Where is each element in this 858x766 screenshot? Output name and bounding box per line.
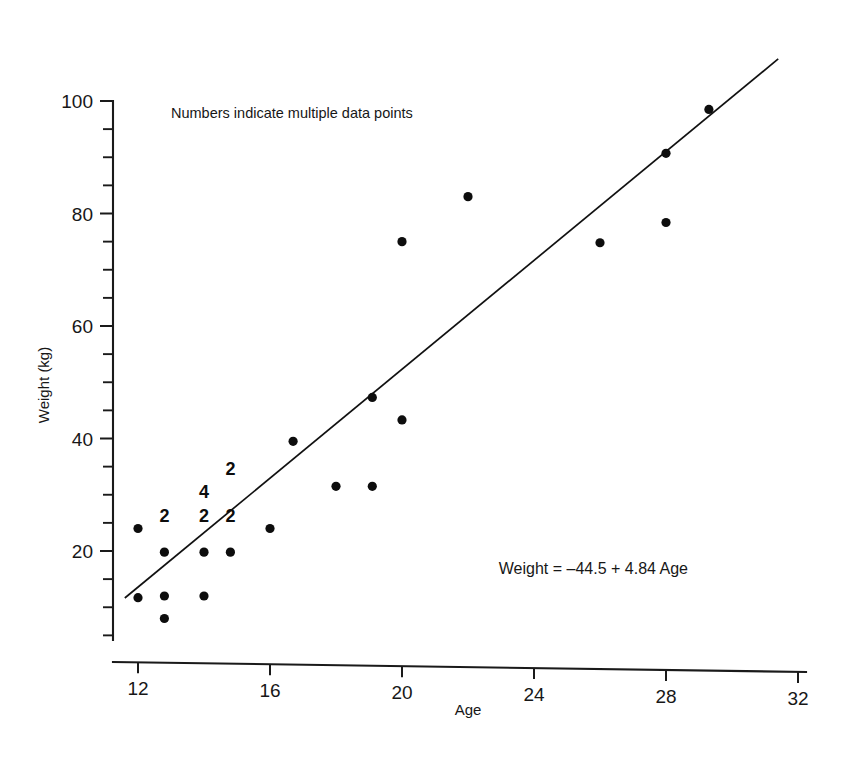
data-point [133,593,142,602]
axis-titles-group: AgeWeight (kg) [35,347,481,718]
regression-equation: Weight = –44.5 + 4.84 Age [499,560,688,577]
data-points-group [133,105,713,623]
regression-line-group [125,59,778,598]
data-point [661,149,670,158]
data-point [397,237,406,246]
data-point [160,614,169,623]
annotations-group: Numbers indicate multiple data pointsWei… [171,105,688,577]
tick-labels-group: 20406080100121620242832 [61,91,808,709]
data-point [368,393,377,402]
x-tick-label: 32 [787,688,808,709]
x-tick-label: 28 [655,686,676,707]
multiplicity-label: 2 [225,459,235,479]
data-point [331,482,340,491]
x-axis-line [113,662,806,672]
y-tick-label: 20 [72,541,93,562]
x-tick-label: 20 [391,682,412,703]
multiplicity-label: 2 [225,506,235,526]
data-point [397,415,406,424]
data-point [704,105,713,114]
data-point [199,548,208,557]
x-axis-title: Age [455,701,482,718]
multiple-points-note: Numbers indicate multiple data points [171,105,413,121]
data-point [199,591,208,600]
x-tick-label: 16 [259,680,280,701]
data-point [463,192,472,201]
data-point [661,218,670,227]
data-point [368,482,377,491]
y-tick-label: 60 [72,316,93,337]
data-point [226,548,235,557]
y-tick-label: 40 [72,429,93,450]
multiplicity-label: 2 [159,506,169,526]
y-tick-label: 100 [61,91,93,112]
multiplicity-label: 4 [199,482,209,502]
y-tick-label: 80 [72,204,93,225]
plot-canvas: 20406080100121620242832 22422 AgeWeight … [0,0,858,766]
x-tick-label: 24 [523,684,545,705]
regression-fit-line [125,59,778,598]
data-point [160,591,169,600]
data-point [289,437,298,446]
scatter-plot-figure: 20406080100121620242832 22422 AgeWeight … [0,0,858,766]
axes-group [113,101,806,672]
data-point [133,524,142,533]
multiplicity-label: 2 [199,506,209,526]
data-point [160,548,169,557]
data-point [265,524,274,533]
data-point [595,238,604,247]
x-tick-label: 12 [127,678,148,699]
y-axis-title: Weight (kg) [35,347,52,423]
